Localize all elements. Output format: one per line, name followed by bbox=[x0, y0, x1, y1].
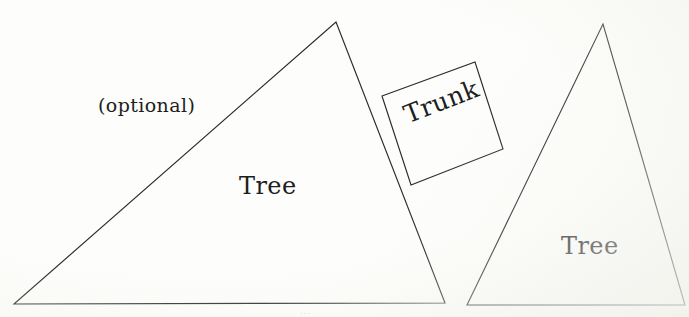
tree-left-label: Tree bbox=[239, 172, 297, 200]
tree-left-triangle[interactable] bbox=[14, 22, 445, 304]
diagram-figure bbox=[0, 0, 689, 317]
diagram-canvas: (optional) Tree Trunk Tree ... bbox=[0, 0, 689, 317]
optional-annotation-label: (optional) bbox=[98, 94, 195, 116]
bottom-faint-mark: ... bbox=[300, 306, 312, 316]
tree-right-label: Tree bbox=[561, 232, 619, 260]
trunk-square[interactable] bbox=[382, 62, 503, 185]
tree-right-triangle[interactable] bbox=[467, 24, 685, 305]
